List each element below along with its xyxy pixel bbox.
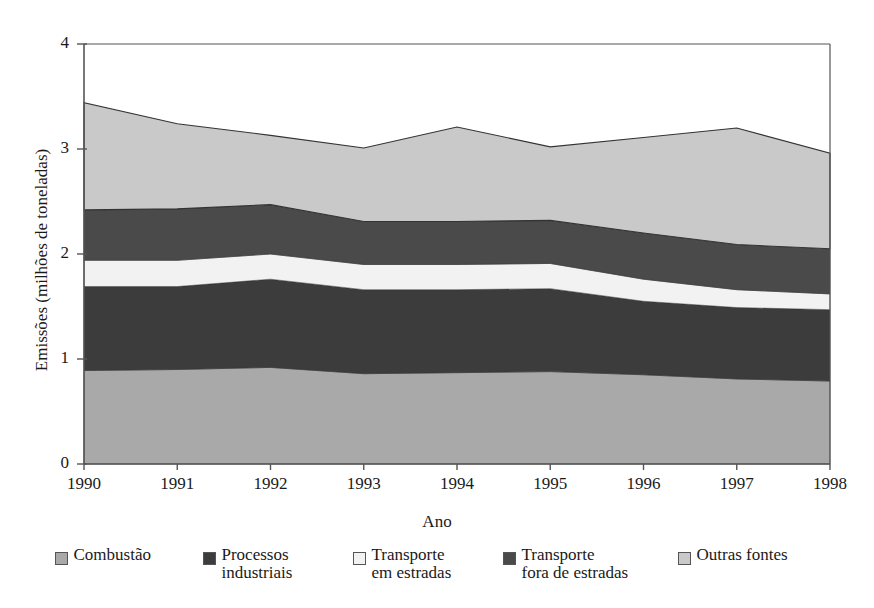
x-tick-label-7: 1997 [707,474,767,494]
legend-label-line1: Processos [222,546,293,564]
legend-swatch-icon [678,552,691,565]
y-tick-label-3: 3 [39,138,69,158]
legend-swatch-icon [203,552,216,565]
legend-label-line2: fora de estradas [522,564,629,582]
y-tick-label-2: 2 [39,243,69,263]
legend-item-4[interactable]: Outras fontes [678,546,838,565]
legend-label: Combustão [74,546,151,564]
legend-label-line2: em estradas [372,564,452,582]
x-tick-label-3: 1993 [334,474,394,494]
x-tick-label-8: 1998 [800,474,860,494]
y-tick-label-4: 4 [39,33,69,53]
legend-label: Transporteem estradas [372,546,452,583]
legend-label-line1: Transporte [522,546,629,564]
legend-label-line1: Transporte [372,546,452,564]
legend-swatch-icon [503,552,516,565]
legend-item-0[interactable]: Combustão [37,546,203,565]
x-tick-label-5: 1995 [520,474,580,494]
legend-label-line2: industriais [222,564,293,582]
legend-swatch-icon [55,552,68,565]
y-tick-label-0: 0 [39,453,69,473]
legend-label-line1: Combustão [74,546,151,564]
x-tick-label-6: 1996 [614,474,674,494]
legend-item-3[interactable]: Transportefora de estradas [503,546,678,583]
x-tick-label-2: 1992 [241,474,301,494]
legend-label: Processosindustriais [222,546,293,583]
stacked-area-chart: Emissões (milhões de toneladas) Ano 0123… [0,0,874,608]
legend-item-1[interactable]: Processosindustriais [203,546,353,583]
area-band-0 [84,367,830,464]
legend-label: Outras fontes [697,546,788,564]
chart-legend: CombustãoProcessosindustriaisTransportee… [0,546,874,583]
x-tick-label-4: 1994 [427,474,487,494]
x-tick-label-0: 1990 [54,474,114,494]
legend-swatch-icon [353,552,366,565]
legend-label: Transportefora de estradas [522,546,629,583]
legend-item-2[interactable]: Transporteem estradas [353,546,503,583]
legend-label-line1: Outras fontes [697,546,788,564]
x-axis-title: Ano [0,512,874,532]
y-tick-label-1: 1 [39,348,69,368]
x-tick-label-1: 1991 [147,474,207,494]
